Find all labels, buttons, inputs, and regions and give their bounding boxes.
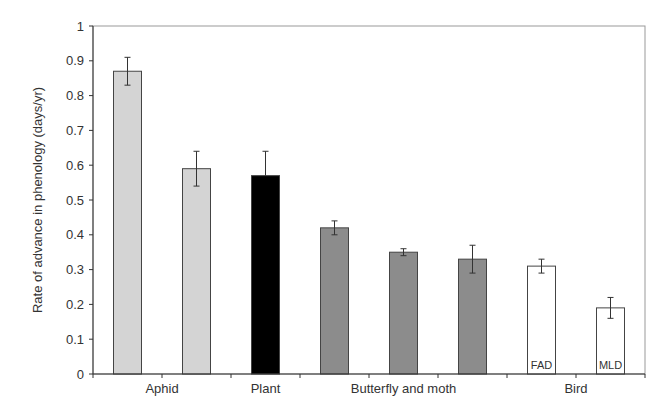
y-tick-label: 0.5 — [66, 193, 84, 208]
y-tick-label: 0.3 — [66, 262, 84, 277]
x-category-label: Plant — [251, 381, 281, 396]
y-tick-label: 0.9 — [66, 53, 84, 68]
x-category-label: Aphid — [145, 381, 178, 396]
bar-bird-fad — [528, 266, 556, 374]
y-tick-label: 0.8 — [66, 88, 84, 103]
y-tick-label: 0.6 — [66, 158, 84, 173]
y-tick-label: 0.4 — [66, 227, 84, 242]
plot-frame — [93, 26, 645, 374]
y-tick-label: 0.2 — [66, 297, 84, 312]
x-category-label: Butterfly and moth — [351, 381, 457, 396]
bar-inner-label: FAD — [531, 359, 552, 371]
x-category-label: Bird — [564, 381, 587, 396]
bar-butterfly-and-moth — [459, 259, 487, 374]
y-axis-title: Rate of advance in phenology (days/yr) — [30, 87, 45, 313]
bar-aphid — [183, 169, 211, 374]
bar-chart: FADMLD 00.10.20.30.40.50.60.70.80.91Aphi… — [0, 0, 672, 415]
axes-layer: 00.10.20.30.40.50.60.70.80.91AphidPlantB… — [66, 19, 645, 397]
bars-layer: FADMLD — [114, 57, 625, 374]
y-tick-label: 0 — [77, 367, 84, 382]
y-tick-label: 0.7 — [66, 123, 84, 138]
bar-aphid — [114, 71, 142, 374]
y-tick-label: 1 — [77, 19, 84, 34]
bar-inner-label: MLD — [599, 359, 622, 371]
bar-butterfly-and-moth — [390, 252, 418, 374]
bar-plant — [252, 176, 280, 374]
bar-butterfly-and-moth — [321, 228, 349, 374]
y-tick-label: 0.1 — [66, 332, 84, 347]
